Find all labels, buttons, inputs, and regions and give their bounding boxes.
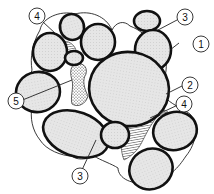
diagram-stage: 4 3 1 2 4 5 3	[0, 0, 214, 194]
svg-text:4: 4	[181, 99, 187, 110]
grain-top-right-small	[134, 11, 160, 31]
callout-2: 2	[182, 77, 198, 93]
grain-small-center	[65, 51, 83, 65]
svg-text:5: 5	[13, 96, 19, 107]
svg-text:3: 3	[77, 171, 83, 182]
grain-left-middle	[13, 68, 63, 115]
callout-5: 5	[8, 93, 24, 109]
callout-1: 1	[193, 36, 209, 52]
grain-left-upper	[33, 33, 67, 71]
microstructure-diagram: 4 3 1 2 4 5 3	[0, 0, 214, 194]
svg-text:4: 4	[34, 11, 40, 22]
svg-text:2: 2	[187, 80, 193, 91]
dotted-pore-center	[71, 63, 88, 105]
svg-text:1: 1	[198, 39, 204, 50]
svg-text:3: 3	[182, 12, 188, 23]
callout-3-bottom: 3	[72, 168, 88, 184]
callout-4-top: 4	[29, 8, 45, 24]
callout-4-bottom: 4	[176, 96, 192, 112]
grain-bottom-center-small	[101, 122, 129, 148]
callout-3-top: 3	[177, 9, 193, 25]
